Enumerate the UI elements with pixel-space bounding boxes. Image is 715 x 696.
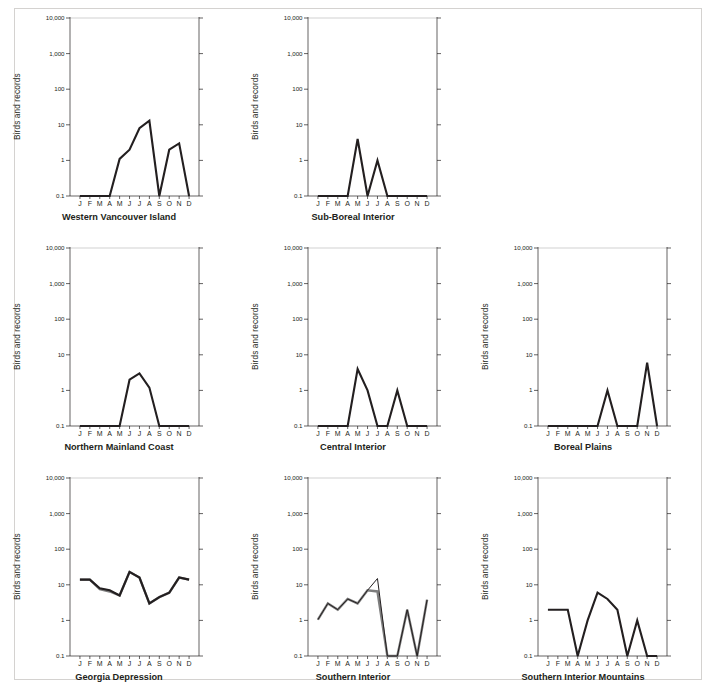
y-tick-label: 1 <box>28 616 65 623</box>
panel-title: Western Vancouver Island <box>0 212 238 222</box>
y-tick-label: 0.1 <box>496 422 533 429</box>
figure-page: 10,0001,0001001010.1JFMAMJJASONDBirds an… <box>0 0 715 696</box>
y-tick-label: 1,000 <box>266 50 303 57</box>
panel-title: Southern Interior Mountains <box>468 672 698 682</box>
y-tick-label: 1 <box>28 386 65 393</box>
y-tick-label: 0.1 <box>266 422 303 429</box>
y-tick-label: 1 <box>496 616 533 623</box>
y-tick-label: 1 <box>266 616 303 623</box>
y-tick-label: 0.1 <box>28 422 65 429</box>
y-axis-label: Birds and records <box>12 56 22 158</box>
y-tick-label: 1,000 <box>496 280 533 287</box>
panel-boreal-plains: 10,0001,0001001010.1JFMAMJJASONDBirds an… <box>468 230 698 460</box>
panel-title: Southern Interior <box>238 672 468 682</box>
y-tick-label: 1,000 <box>28 50 65 57</box>
y-tick-label: 100 <box>266 85 303 92</box>
series-line-birds-and-records <box>80 373 189 426</box>
panel-title: Boreal Plains <box>468 442 698 452</box>
y-tick-label: 1,000 <box>496 510 533 517</box>
x-tick-label: D <box>183 200 195 207</box>
y-axis-label: Birds and records <box>12 286 22 388</box>
y-tick-label: 1,000 <box>266 280 303 287</box>
y-tick-label: 10,000 <box>266 474 303 481</box>
y-tick-label: 1,000 <box>28 280 65 287</box>
y-tick-label: 10,000 <box>496 474 533 481</box>
y-tick-label: 0.1 <box>28 652 65 659</box>
panel-title: Central Interior <box>238 442 468 452</box>
y-axis-label: Birds and records <box>250 56 260 158</box>
series-line-birds-and-records <box>318 139 427 196</box>
panel-central-interior: 10,0001,0001001010.1JFMAMJJASONDBirds an… <box>238 230 468 460</box>
y-tick-label: 10 <box>28 581 65 588</box>
y-tick-label: 0.1 <box>266 652 303 659</box>
series-line-records <box>318 590 427 656</box>
y-tick-label: 10 <box>266 581 303 588</box>
y-axis-label: Birds and records <box>480 286 490 388</box>
y-tick-label: 1 <box>266 386 303 393</box>
panel-southern-interior-mountains: 10,0001,0001001010.1JFMAMJJASONDBirds an… <box>468 460 698 696</box>
panel-southern-interior: 10,0001,0001001010.1JFMAMJJASONDBirds an… <box>238 460 468 696</box>
panel-sub-boreal-interior: 10,0001,0001001010.1JFMAMJJASONDBirds an… <box>238 0 468 230</box>
panel-title: Sub-Boreal Interior <box>238 212 468 222</box>
y-tick-label: 0.1 <box>496 652 533 659</box>
series-line-birds-and-records <box>80 121 189 196</box>
y-tick-label: 100 <box>28 545 65 552</box>
y-axis-label: Birds and records <box>12 516 22 618</box>
y-tick-label: 1 <box>496 386 533 393</box>
y-tick-label: 10,000 <box>496 244 533 251</box>
panel-grid: 10,0001,0001001010.1JFMAMJJASONDBirds an… <box>0 0 715 696</box>
series-line-birds-and-records <box>548 363 657 426</box>
y-tick-label: 10,000 <box>28 244 65 251</box>
panel-northern-mainland-coast: 10,0001,0001001010.1JFMAMJJASONDBirds an… <box>0 230 238 460</box>
y-tick-label: 10,000 <box>266 14 303 21</box>
series-line-birds-and-records <box>318 369 427 426</box>
y-tick-label: 100 <box>266 545 303 552</box>
x-tick-label: D <box>421 430 433 437</box>
y-tick-label: 100 <box>496 315 533 322</box>
y-tick-label: 10 <box>266 351 303 358</box>
y-tick-label: 10,000 <box>28 474 65 481</box>
x-tick-label: D <box>421 200 433 207</box>
y-tick-label: 10 <box>496 351 533 358</box>
series-line-birds <box>80 572 189 603</box>
y-axis-label: Birds and records <box>250 516 260 618</box>
y-tick-label: 10 <box>28 121 65 128</box>
panel-georgia-depression: 10,0001,0001001010.1JFMAMJJASONDBirds an… <box>0 460 238 696</box>
y-tick-label: 10 <box>28 351 65 358</box>
panel-title: Georgia Depression <box>0 672 238 682</box>
panel-western-vancouver-island: 10,0001,0001001010.1JFMAMJJASONDBirds an… <box>0 0 238 230</box>
x-tick-label: D <box>183 660 195 667</box>
y-tick-label: 1,000 <box>266 510 303 517</box>
y-tick-label: 100 <box>28 315 65 322</box>
y-tick-label: 0.1 <box>28 192 65 199</box>
x-tick-label: D <box>651 430 663 437</box>
y-tick-label: 10 <box>496 581 533 588</box>
y-tick-label: 10,000 <box>266 244 303 251</box>
y-tick-label: 100 <box>496 545 533 552</box>
y-tick-label: 10,000 <box>28 14 65 21</box>
y-tick-label: 10 <box>266 121 303 128</box>
x-tick-label: D <box>183 430 195 437</box>
y-tick-label: 1 <box>266 156 303 163</box>
y-axis-label: Birds and records <box>250 286 260 388</box>
panel-empty <box>468 0 698 230</box>
y-tick-label: 100 <box>28 85 65 92</box>
y-axis-label: Birds and records <box>480 516 490 618</box>
y-tick-label: 1 <box>28 156 65 163</box>
y-tick-label: 0.1 <box>266 192 303 199</box>
y-tick-label: 100 <box>266 315 303 322</box>
panel-title: Northern Mainland Coast <box>0 442 238 452</box>
y-tick-label: 1,000 <box>28 510 65 517</box>
x-tick-label: D <box>421 660 433 667</box>
x-tick-label: D <box>651 660 663 667</box>
series-line-birds-and-records <box>548 593 657 656</box>
